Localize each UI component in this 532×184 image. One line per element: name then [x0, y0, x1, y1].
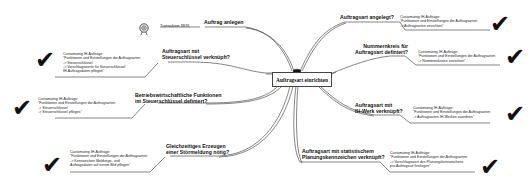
note-steuerschluessel: Customizing IH-Aufträge: "Funktionen und…	[63, 52, 140, 73]
branch-betriebswirtschaftliche-funktionen[interactable]: Betriebswirtschaftliche Funktionen im St…	[135, 92, 221, 104]
checkmark-icon: ✔	[490, 12, 510, 36]
center-node-label: Auftragsart einrichten	[276, 77, 328, 83]
transaction-label: Transaktion IW31	[160, 24, 190, 28]
branch-planungskennzeichen[interactable]: Auftragsart mit statistischem Planungske…	[302, 148, 385, 160]
branch-auftragsart-angelegt[interactable]: Auftragsart angelegt?	[340, 14, 394, 20]
branch-auftrag-anlegen[interactable]: Auftrag anlegen	[204, 19, 244, 25]
note-stoermeldung: Customizing IH-Aufträge: "Funktionen und…	[70, 150, 147, 167]
note-nummernkreis: Customizing IH-Aufträge: "Funktionen und…	[418, 50, 495, 63]
checkmark-icon: ✔	[480, 155, 500, 179]
branch-stoermeldung[interactable]: Gleichzeitiges Erzeugen einer Störmeldun…	[166, 143, 229, 155]
branch-nummernkreis[interactable]: Nummernkreis für Auftragsart definiert?	[355, 43, 408, 55]
checkmark-icon: ✔	[505, 102, 525, 126]
branch-steuerschluessel[interactable]: Auftragsart mit Steuerschlüssel verknüpf…	[162, 48, 230, 60]
note-betriebswirtschaftliche: Customizing IH-Aufträge: "Funktionen und…	[38, 97, 115, 114]
note-planungskennzeichen: Customizing IH-Aufträge: "Funktionen und…	[390, 151, 467, 168]
target-icon	[139, 21, 149, 33]
branch-label: Auftrag anlegen	[204, 19, 244, 25]
note-angelegt: Customizing IH-Aufträge: "Funktionen und…	[400, 15, 477, 28]
checkmark-icon: ✔	[35, 48, 55, 72]
branch-ih-werk[interactable]: Auftragsart mit IH-Werk verknüpft?	[355, 102, 403, 114]
checkmark-icon: ✔	[42, 153, 62, 177]
checkmark-icon: ✔	[12, 96, 32, 120]
center-node[interactable]: Auftragsart einrichten	[272, 72, 332, 87]
note-ih-werk: Customizing IH-Aufträge: "Funktionen und…	[413, 106, 490, 119]
checkmark-icon: ✔	[505, 45, 525, 69]
